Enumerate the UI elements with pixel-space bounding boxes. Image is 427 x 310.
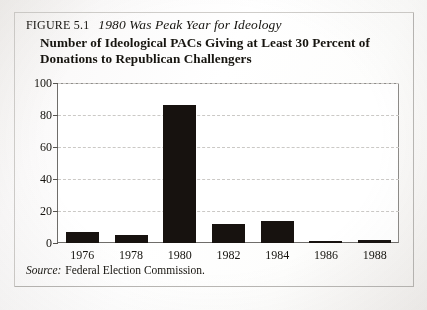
plot-area <box>58 83 399 243</box>
x-axis-tick-label: 1978 <box>107 248 156 263</box>
bar <box>358 240 391 243</box>
y-axis-tick-label: 0 <box>20 236 52 251</box>
source-note: Source:Federal Election Commission. <box>26 264 205 276</box>
y-axis-tick-label: 80 <box>20 108 52 123</box>
y-axis-tick-label: 60 <box>20 140 52 155</box>
y-axis-tick-label: 40 <box>20 172 52 187</box>
gridline <box>58 211 399 212</box>
gridline <box>58 147 399 148</box>
y-axis-tick-mark <box>53 243 58 244</box>
y-axis-tick-mark <box>53 83 58 84</box>
y-axis-tick-mark <box>53 147 58 148</box>
bar <box>309 241 342 243</box>
x-axis-tick-label: 1988 <box>350 248 399 263</box>
bar <box>66 232 99 243</box>
gridline <box>58 179 399 180</box>
x-axis-tick-label: 1980 <box>155 248 204 263</box>
gridline <box>58 115 399 116</box>
bar <box>115 235 148 243</box>
y-axis-labels: 020406080100 <box>19 83 52 243</box>
x-axis-tick-label: 1982 <box>204 248 253 263</box>
y-axis-tick-label: 100 <box>20 76 52 91</box>
y-axis-tick-label: 20 <box>20 204 52 219</box>
source-label: Source: <box>26 264 61 276</box>
x-axis-tick-label: 1984 <box>253 248 302 263</box>
bar <box>212 224 245 243</box>
y-axis-tick-mark <box>53 179 58 180</box>
bar <box>261 221 294 243</box>
y-axis-tick-mark <box>53 211 58 212</box>
source-text: Federal Election Commission. <box>65 264 205 276</box>
bar <box>163 105 196 243</box>
x-axis-tick-label: 1976 <box>58 248 107 263</box>
y-axis-ticks <box>53 83 58 243</box>
gridline <box>58 83 399 84</box>
x-axis-tick-label: 1986 <box>302 248 351 263</box>
y-axis-tick-mark <box>53 115 58 116</box>
